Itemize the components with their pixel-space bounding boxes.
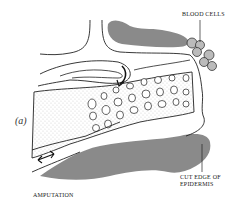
amputation-label: AMPUTATION [33,192,74,198]
upper-epidermis-shape [108,20,189,47]
blood-cells-cluster [187,38,217,71]
panel-label: (a) [15,115,27,126]
cut-edge-label-line1: CUT EDGE OF [180,174,221,180]
blood-cells-label: BLOOD CELLS [182,11,225,17]
cut-edge-label-line2: EPIDERMIS [180,181,213,187]
